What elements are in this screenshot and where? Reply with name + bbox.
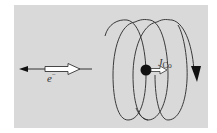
electron-label: e−	[47, 71, 56, 84]
nuclear-spin-label: JCo	[158, 57, 172, 70]
current-direction-arrow-icon	[191, 66, 201, 82]
wu-experiment-diagram	[0, 0, 217, 133]
cobalt-nucleus	[141, 65, 152, 76]
